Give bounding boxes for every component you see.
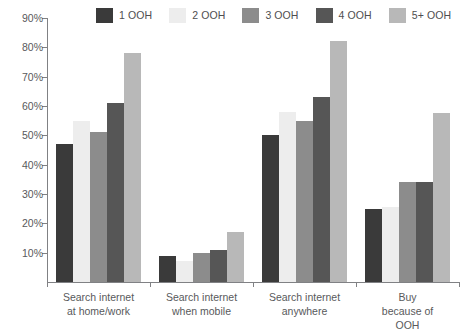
y-axis-tick-label: 40% (22, 159, 43, 171)
bar-group (262, 18, 347, 282)
bar[interactable] (227, 232, 244, 282)
category-labels: Search internet at home/workSearch inter… (47, 290, 459, 326)
y-axis-tick-label: 90% (22, 12, 43, 24)
y-axis-tick-label: 30% (22, 188, 43, 200)
bar[interactable] (90, 132, 107, 282)
bar[interactable] (399, 182, 416, 282)
y-axis-tick-label: 70% (22, 71, 43, 83)
plot-area: 10%20%30%40%50%60%70%80%90% (47, 18, 459, 283)
y-axis-tick-label: 60% (22, 100, 43, 112)
x-axis-category-label: Search internet when mobile (166, 290, 237, 318)
x-axis-tick (253, 282, 254, 287)
y-axis-tick-label: 80% (22, 41, 43, 53)
x-axis-category-label: Buy because of OOH (382, 290, 434, 332)
x-axis-tick (150, 282, 151, 287)
bar-group (56, 18, 141, 282)
bar[interactable] (262, 135, 279, 282)
bar[interactable] (56, 144, 73, 282)
bar[interactable] (176, 261, 193, 282)
x-axis-tick (47, 282, 48, 287)
bar[interactable] (296, 121, 313, 282)
y-axis-tick-label: 20% (22, 217, 43, 229)
bar[interactable] (107, 103, 124, 282)
y-axis-tick-label: 10% (22, 247, 43, 259)
y-axis-line (47, 18, 48, 283)
x-axis-category-label: Search internet anywhere (269, 290, 340, 318)
bar[interactable] (124, 53, 141, 282)
bar[interactable] (433, 113, 450, 282)
bar-group (365, 18, 450, 282)
bar[interactable] (73, 121, 90, 282)
bar[interactable] (159, 256, 176, 282)
bar[interactable] (313, 97, 330, 282)
bar[interactable] (279, 112, 296, 282)
x-axis-tick (356, 282, 357, 287)
bar[interactable] (330, 41, 347, 282)
bar[interactable] (365, 209, 382, 282)
bar[interactable] (416, 182, 433, 282)
bar[interactable] (193, 253, 210, 282)
bar-group (159, 18, 244, 282)
bar[interactable] (210, 250, 227, 282)
x-axis-category-label: Search internet at home/work (63, 290, 134, 318)
y-axis-tick-label: 50% (22, 129, 43, 141)
bar[interactable] (382, 207, 399, 282)
x-axis-tick (459, 282, 460, 287)
